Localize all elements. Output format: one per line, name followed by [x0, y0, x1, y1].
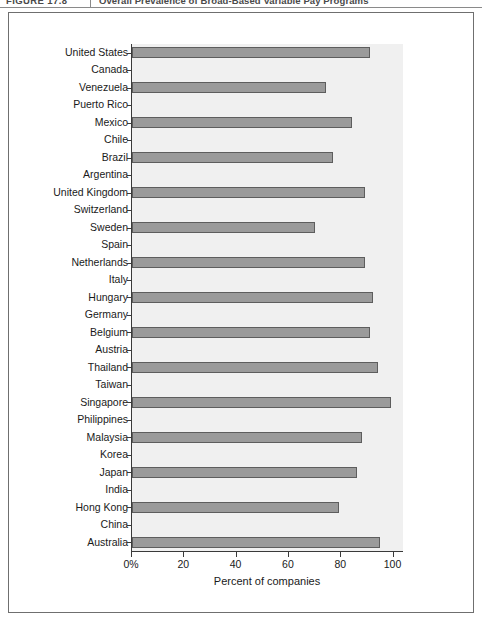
x-axis-line [131, 551, 403, 552]
category-tick [127, 297, 131, 298]
category-tick [127, 175, 131, 176]
category-label-australia: Australia [87, 534, 128, 551]
category-label-sweden: Sweden [90, 219, 128, 236]
category-tick [127, 455, 131, 456]
category-label-netherlands: Netherlands [71, 254, 128, 271]
category-label-singapore: Singapore [80, 394, 128, 411]
bar-row: Venezuela [0, 79, 482, 96]
bar-row: Malaysia [0, 429, 482, 446]
category-label-canada: Canada [91, 61, 128, 78]
category-label-germany: Germany [85, 306, 128, 323]
category-label-mexico: Mexico [95, 114, 128, 131]
bar-row: Singapore [0, 394, 482, 411]
category-tick [127, 88, 131, 89]
category-label-japan: Japan [99, 464, 128, 481]
category-label-united-kingdom: United Kingdom [53, 184, 128, 201]
x-tick-label: 80 [334, 558, 346, 570]
bar-row: United States [0, 44, 482, 61]
x-tick [393, 552, 394, 557]
bar-row: Japan [0, 464, 482, 481]
x-tick-label: 40 [230, 558, 242, 570]
bar-hungary [132, 292, 373, 303]
x-tick [236, 552, 237, 557]
bar-row: China [0, 516, 482, 533]
category-tick [127, 210, 131, 211]
category-label-puerto-rico: Puerto Rico [73, 96, 128, 113]
category-tick [127, 193, 131, 194]
bar-row: Chile [0, 131, 482, 148]
bar-row: Australia [0, 534, 482, 551]
category-tick [127, 105, 131, 106]
bar-netherlands [132, 257, 365, 268]
x-tick [131, 552, 132, 557]
bar-japan [132, 467, 357, 478]
bar-row: Canada [0, 61, 482, 78]
category-label-korea: Korea [100, 446, 128, 463]
category-label-thailand: Thailand [88, 359, 128, 376]
bar-row: Switzerland [0, 201, 482, 218]
bar-brazil [132, 152, 333, 163]
category-tick [127, 263, 131, 264]
category-tick [127, 437, 131, 438]
x-axis-title: Percent of companies [131, 575, 403, 587]
category-label-belgium: Belgium [90, 324, 128, 341]
bar-mexico [132, 117, 352, 128]
category-tick [127, 158, 131, 159]
category-tick [127, 420, 131, 421]
bar-row: Italy [0, 271, 482, 288]
bar-row: Mexico [0, 114, 482, 131]
x-tick [340, 552, 341, 557]
x-tick-label: 0% [123, 558, 138, 570]
category-label-china: China [101, 516, 128, 533]
category-label-united-states: United States [65, 44, 128, 61]
bar-row: Germany [0, 306, 482, 323]
bar-row: Korea [0, 446, 482, 463]
category-label-philippines: Philippines [77, 411, 128, 428]
category-label-austria: Austria [95, 341, 128, 358]
category-tick [127, 385, 131, 386]
category-tick [127, 315, 131, 316]
bar-row: Spain [0, 236, 482, 253]
bar-row: Austria [0, 341, 482, 358]
bar-united-kingdom [132, 187, 365, 198]
bar-row: Sweden [0, 219, 482, 236]
category-tick [127, 472, 131, 473]
bar-row: Hungary [0, 289, 482, 306]
bar-malaysia [132, 432, 362, 443]
bar-row: Brazil [0, 149, 482, 166]
bar-row: Taiwan [0, 376, 482, 393]
bar-thailand [132, 362, 378, 373]
category-tick [127, 53, 131, 54]
category-label-italy: Italy [109, 271, 128, 288]
category-tick [127, 245, 131, 246]
category-tick [127, 228, 131, 229]
x-tick-label: 60 [282, 558, 294, 570]
category-tick [127, 140, 131, 141]
category-tick [127, 525, 131, 526]
x-tick-label: 20 [177, 558, 189, 570]
category-label-india: India [105, 481, 128, 498]
category-tick [127, 332, 131, 333]
category-label-spain: Spain [101, 236, 128, 253]
category-tick [127, 70, 131, 71]
bar-chart: United StatesCanadaVenezuelaPuerto RicoM… [0, 0, 482, 621]
bar-row: Philippines [0, 411, 482, 428]
x-tick-label: 100 [384, 558, 402, 570]
category-label-switzerland: Switzerland [74, 201, 128, 218]
bar-singapore [132, 397, 391, 408]
category-tick [127, 280, 131, 281]
category-tick [127, 402, 131, 403]
category-label-venezuela: Venezuela [79, 79, 128, 96]
category-label-chile: Chile [104, 131, 128, 148]
bar-australia [132, 537, 380, 548]
bar-row: Thailand [0, 359, 482, 376]
category-label-hungary: Hungary [88, 289, 128, 306]
bar-venezuela [132, 82, 326, 93]
category-label-hong-kong: Hong Kong [75, 499, 128, 516]
category-tick [127, 490, 131, 491]
category-tick [127, 367, 131, 368]
category-label-taiwan: Taiwan [95, 376, 128, 393]
bar-row: Puerto Rico [0, 96, 482, 113]
category-tick [127, 350, 131, 351]
category-tick [127, 507, 131, 508]
